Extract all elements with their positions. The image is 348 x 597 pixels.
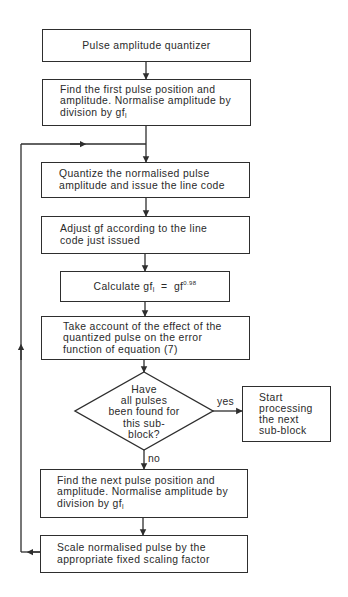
edge-label-no: no xyxy=(148,453,160,465)
calc-prefix: Calculate gf xyxy=(94,281,153,292)
node-text: Start processing the next sub-block xyxy=(259,392,313,437)
node-find-next-pulse: Find the next pulse position and amplitu… xyxy=(40,469,248,518)
superscript: 0.98 xyxy=(183,280,196,286)
subscript: l xyxy=(125,112,127,119)
node-text: Find the next pulse position and amplitu… xyxy=(57,475,228,509)
node-quantize: Quantize the normalised pulse amplitude … xyxy=(41,162,250,198)
node-text: Scale normalised pulse by the appropriat… xyxy=(57,542,210,565)
node-pulse-amplitude-quantizer: Pulse amplitude quantizer xyxy=(42,29,251,62)
node-text: Pulse amplitude quantizer xyxy=(82,40,210,52)
node-find-first-pulse: Find the first pulse position and amplit… xyxy=(42,79,251,126)
flowchart: Pulse amplitude quantizer Find the first… xyxy=(0,0,348,597)
calc-middle: = gf xyxy=(155,281,184,292)
node-calculate-gf: Calculate gfl = gf0.98 xyxy=(60,271,230,302)
edge-label-yes: yes xyxy=(217,396,234,408)
node-adjust-gf: Adjust gf according to the line code jus… xyxy=(41,216,250,254)
subscript: l xyxy=(122,503,124,510)
node-text: Find the first pulse position and amplit… xyxy=(60,84,231,118)
node-text: Adjust gf according to the line code jus… xyxy=(60,223,207,246)
decision-text: Have all pulses been found for this sub-… xyxy=(94,384,194,440)
node-text: Quantize the normalised pulse amplitude … xyxy=(59,168,225,191)
node-scale-pulse: Scale normalised pulse by the appropriat… xyxy=(40,535,248,573)
node-take-account: Take account of the effect of the quanti… xyxy=(41,316,250,360)
node-text: Take account of the effect of the quanti… xyxy=(63,321,222,356)
node-next-subblock: Start processing the next sub-block xyxy=(242,386,331,442)
